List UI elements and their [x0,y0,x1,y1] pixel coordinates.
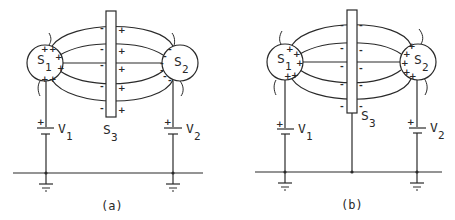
svg-text:-: - [340,43,344,53]
s2-subscript: 2 [182,63,189,76]
svg-text:+: + [37,117,45,127]
svg-text:+: + [118,105,126,115]
v1-subscript: 1 [306,130,313,143]
v1-label: V [58,121,66,136]
v2-label: V [186,121,194,136]
svg-text:+: + [276,119,284,129]
plate-s3-b: -- -- -- -- -- S 3 [340,10,376,172]
svg-text:+: + [118,83,126,93]
svg-text:-: - [340,79,344,89]
svg-text:+: + [57,63,65,73]
s3-label: S [103,122,111,137]
svg-text:+: + [118,25,126,35]
svg-text:+: + [118,46,126,56]
ground-bus-a [13,171,203,191]
svg-text:-: - [359,45,363,55]
svg-text:+: + [164,117,172,127]
v1-label: V [298,121,306,136]
svg-text:-: - [340,20,344,30]
s2-label: S [174,54,182,69]
svg-text:+: + [407,117,415,127]
v2-subscript: 2 [438,129,445,142]
s2-label: S [414,52,422,67]
svg-text:+: + [118,64,126,74]
sphere-s2-b: S 2 + + + + + [400,29,436,95]
sphere-s2-a: S 2 - - - - - - [160,33,198,96]
caption-a: (a) [101,199,123,213]
v2-label: V [430,120,438,135]
svg-text:-: - [100,23,104,33]
svg-text:+: + [49,74,57,84]
svg-text:-: - [359,20,363,30]
battery-v1-a: + V 1 [37,81,73,173]
svg-text:-: - [340,101,344,111]
ground-bus-b [255,170,442,190]
s3-subscript: 3 [111,131,118,144]
caption-b: (b) [341,198,363,212]
svg-text:-: - [359,63,363,73]
s1-label: S [277,51,285,66]
svg-text:-: - [163,71,167,81]
svg-text:-: - [100,81,104,91]
svg-text:-: - [340,61,344,71]
svg-text:-: - [168,44,172,54]
s3-subscript: 3 [369,117,376,130]
svg-text:-: - [359,80,363,90]
svg-text:+: + [55,52,63,62]
svg-text:-: - [100,103,104,113]
svg-text:+: + [296,58,304,68]
electrostatic-shielding-diagram: S 1 + + + + + + S 2 - - - - - [0,0,455,220]
s2-subscript: 2 [422,61,429,74]
svg-text:-: - [100,44,104,54]
svg-text:+: + [291,70,299,80]
s3-label: S [361,108,369,123]
svg-text:+: + [409,71,417,81]
svg-text:-: - [100,60,104,70]
v1-subscript: 1 [66,130,73,143]
svg-text:-: - [168,75,172,85]
v2-subscript: 2 [194,130,201,143]
battery-v1-b: + V 1 [276,80,313,172]
svg-text:+: + [41,44,49,54]
panel-a: S 1 + + + + + + S 2 - - - - - [13,11,203,213]
s1-label: S [37,52,45,67]
svg-text:+: + [41,74,49,84]
s1-subscript: 1 [45,61,52,74]
panel-b: S 1 + + + + + S 2 + + + + + [255,10,445,212]
plate-s3-a: -+ -+ -+ -+ -+ S 3 [100,11,126,144]
